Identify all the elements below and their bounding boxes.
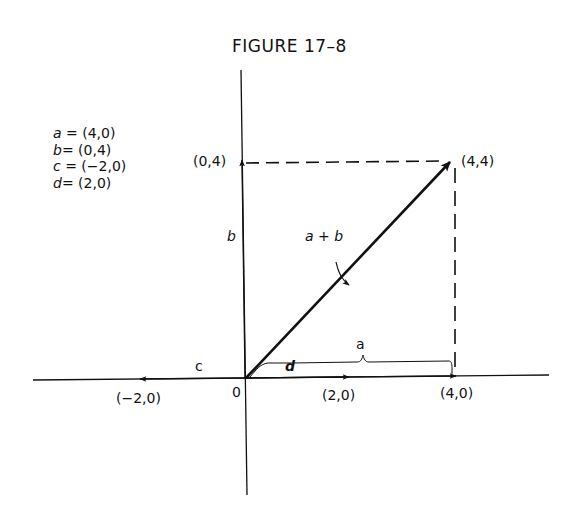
label-point-4-0: (4,0) [440, 385, 473, 401]
label-vector-c: c [195, 358, 203, 374]
label-point-0-4: (0,4) [193, 153, 226, 169]
label-vector-d: d [285, 358, 295, 374]
label-point-2-0: (2,0) [322, 387, 355, 403]
label-origin: 0 [232, 384, 241, 400]
dashed-guide-horizontal [246, 161, 445, 163]
label-vector-b: b [227, 228, 236, 244]
vector-c [140, 378, 245, 379]
vector-a-plus-b [246, 162, 450, 378]
vector-diagram [0, 0, 571, 519]
label-vector-a: a [356, 336, 365, 352]
label-vector-a-plus-b: a + b [305, 228, 343, 244]
brace-a [292, 355, 452, 374]
vector-b [242, 160, 245, 378]
label-point-4-4: (4,4) [461, 153, 494, 169]
label-point-neg2-0: (−2,0) [116, 390, 161, 406]
